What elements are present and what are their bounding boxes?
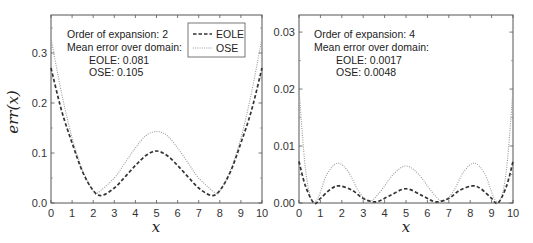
x-tick-label: 1: [317, 207, 323, 219]
x-tick-label: 7: [196, 207, 202, 219]
legend: EOLE OSE: [188, 23, 245, 57]
curve-ose: [299, 89, 513, 202]
y-tick-label: 0.00: [274, 197, 295, 209]
x-tick-label: 10: [256, 207, 268, 219]
left-annot-mean-header: Mean error over domain:: [67, 41, 182, 53]
right-annot-order: Order of expansion: 4: [314, 28, 415, 40]
y-tick-label: 0.2: [32, 97, 47, 109]
legend-ose-label: OSE: [216, 42, 238, 54]
left-y-axis-title: err(x): [4, 90, 22, 134]
y-tick-label: 0.1: [32, 147, 47, 159]
x-tick-label: 8: [467, 207, 473, 219]
y-tick-label: 0.03: [274, 26, 295, 38]
right-curves: [299, 89, 513, 203]
left-annot-ose: OSE: 0.105: [89, 66, 143, 78]
right-plot-panel: 012345678910 0.000.010.020.03 x Order of…: [274, 15, 520, 236]
x-tick-label: 3: [360, 207, 366, 219]
left-curves: [51, 38, 262, 196]
x-tick-label: 6: [424, 207, 430, 219]
x-tick-label: 4: [382, 207, 388, 219]
x-tick-label: 2: [339, 207, 345, 219]
right-annot-mean-header: Mean error over domain:: [314, 41, 429, 53]
right-annot-ose: OSE: 0.0048: [336, 66, 396, 78]
y-tick-label: 0.0: [32, 197, 47, 209]
right-annotation: Order of expansion: 4 Mean error over do…: [314, 28, 429, 78]
x-tick-label: 9: [489, 207, 495, 219]
legend-eole-label: EOLE: [216, 28, 244, 40]
x-tick-label: 6: [175, 207, 181, 219]
x-tick-label: 9: [238, 207, 244, 219]
left-annot-order: Order of expansion: 2: [67, 28, 168, 40]
x-tick-label: 2: [90, 207, 96, 219]
left-annot-eole: EOLE: 0.081: [89, 54, 149, 66]
y-tick-label: 0.01: [274, 140, 295, 152]
left-x-axis-title: x: [152, 218, 161, 236]
x-tick-label: 4: [132, 207, 138, 219]
left-plot-panel: 012345678910 0.00.10.20.3 err(x) x Order…: [4, 15, 268, 236]
right-x-axis-title: x: [402, 218, 411, 236]
x-tick-label: 7: [446, 207, 452, 219]
x-tick-label: 3: [111, 207, 117, 219]
y-tick-label: 0.02: [274, 83, 295, 95]
right-annot-eole: EOLE: 0.0017: [336, 54, 402, 66]
left-annotation: Order of expansion: 2 Mean error over do…: [67, 28, 182, 78]
y-tick-label: 0.3: [32, 47, 47, 59]
x-tick-label: 0: [48, 207, 54, 219]
figure: 012345678910 0.00.10.20.3 err(x) x Order…: [0, 0, 533, 243]
x-tick-label: 1: [69, 207, 75, 219]
x-tick-label: 0: [296, 207, 302, 219]
x-tick-label: 8: [217, 207, 223, 219]
x-tick-label: 10: [507, 207, 519, 219]
